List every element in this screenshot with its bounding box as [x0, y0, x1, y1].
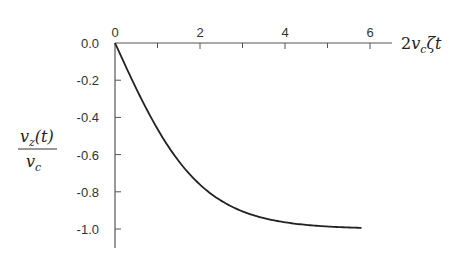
x-axis: 0246	[111, 25, 392, 49]
data-series-line	[115, 43, 362, 228]
x-ticks: 0246	[111, 25, 373, 49]
x-axis-label: 2vcζt	[401, 34, 442, 56]
chart: 0246 0.0-0.2-0.4-0.6-0.8-1.0 2vcζt vz(t)…	[0, 0, 461, 262]
y-tick-label: -1.0	[77, 222, 99, 237]
svg-text:vc: vc	[26, 152, 41, 174]
x-tick-label: 0	[111, 25, 118, 40]
y-ticks: 0.0-0.2-0.4-0.6-0.8-1.0	[77, 36, 121, 237]
y-axis: 0.0-0.2-0.4-0.6-0.8-1.0	[77, 36, 121, 248]
y-tick-label: -0.4	[77, 110, 99, 125]
y-tick-label: 0.0	[81, 36, 99, 51]
y-tick-label: -0.2	[77, 73, 99, 88]
x-tick-label: 4	[281, 25, 288, 40]
y-tick-label: -0.8	[77, 185, 99, 200]
svg-text:vz(t): vz(t)	[20, 127, 54, 149]
y-tick-label: -0.6	[77, 148, 99, 163]
x-tick-label: 6	[366, 25, 373, 40]
y-axis-label: vz(t) vc	[18, 127, 57, 174]
x-tick-label: 2	[196, 25, 203, 40]
